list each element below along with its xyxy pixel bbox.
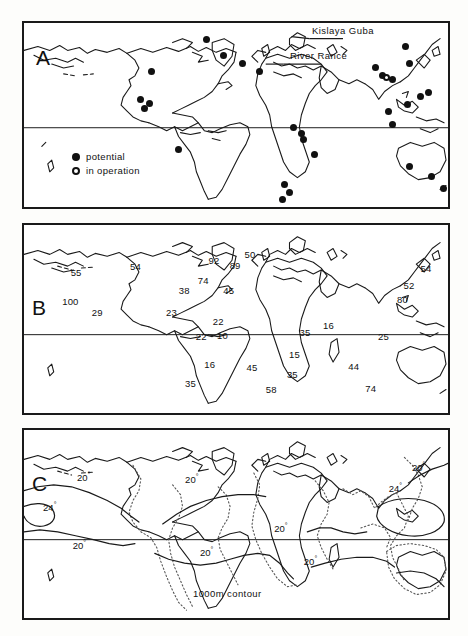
site-marker-potential	[406, 60, 413, 67]
isotherm-label: 24°	[43, 501, 56, 513]
isotherm-label: 20°	[274, 522, 287, 534]
site-marker-potential	[389, 121, 396, 128]
contour-caption-label: 1000m contour	[193, 588, 262, 599]
site-marker-potential	[279, 196, 286, 203]
site-marker-potential	[290, 124, 297, 131]
site-marker-potential	[300, 136, 307, 143]
tidal-range-value: 35	[300, 327, 311, 338]
tidal-range-value: 15	[289, 349, 300, 360]
panel-a: A potential in operation	[22, 21, 450, 209]
tidal-range-value: 22	[213, 316, 224, 327]
panel-b: 5554100299250897438452322102235162554528…	[22, 223, 450, 415]
tidal-range-value: 29	[92, 307, 103, 318]
tidal-range-value: 45	[223, 285, 234, 296]
site-marker-potential	[141, 105, 148, 112]
panel-c-letter: C	[32, 472, 48, 496]
site-marker-potential	[311, 151, 318, 158]
site-marker-potential	[281, 181, 288, 188]
tidal-range-value: 16	[204, 359, 215, 370]
isotherm-label: 24°	[389, 482, 402, 494]
site-marker-potential	[389, 76, 396, 83]
tidal-range-value: 22	[196, 331, 207, 342]
tidal-range-value: 25	[378, 331, 389, 342]
panel-a-markers-layer	[24, 23, 448, 207]
tidal-range-value: 50	[244, 249, 255, 260]
tidal-range-value: 100	[62, 296, 78, 307]
site-marker-potential	[137, 96, 144, 103]
site-marker-potential	[440, 185, 447, 192]
tidal-range-value: 89	[230, 260, 241, 271]
panel-b-letter: B	[32, 296, 47, 320]
tidal-range-value: 92	[208, 255, 219, 266]
site-marker-potential	[372, 64, 379, 71]
isotherm-label: 20°	[73, 539, 86, 551]
tidal-range-value: 54	[130, 261, 141, 272]
site-marker-potential	[286, 189, 293, 196]
site-marker-potential	[256, 68, 263, 75]
site-marker-potential	[220, 52, 227, 59]
figure-container: A potential in operation Kislaya Guba Ri…	[0, 0, 468, 636]
tidal-range-value: 74	[198, 275, 209, 286]
site-marker-potential	[175, 146, 182, 153]
isotherm-label: 20°	[304, 555, 317, 567]
site-marker-potential	[406, 163, 413, 170]
annotation-kislaya-guba: Kislaya Guba	[312, 25, 374, 36]
site-marker-potential	[385, 108, 392, 115]
tidal-range-value: 52	[403, 280, 414, 291]
tidal-range-value: 58	[266, 384, 277, 395]
tidal-range-value: 55	[71, 267, 82, 278]
site-marker-in-operation	[383, 74, 390, 81]
site-marker-potential	[428, 173, 435, 180]
panel-b-values-layer: 5554100299250897438452322102235162554528…	[24, 225, 448, 413]
isotherm-label: 20°	[412, 461, 425, 473]
site-marker-potential	[203, 36, 210, 43]
site-marker-potential	[402, 43, 409, 50]
tidal-range-value: 80	[397, 294, 408, 305]
site-marker-potential	[404, 101, 411, 108]
tidal-range-value: 23	[166, 307, 177, 318]
tidal-range-value: 35	[185, 378, 196, 389]
tidal-range-value: 54	[420, 263, 431, 274]
tidal-range-value: 10	[217, 330, 228, 341]
tidal-range-value: 45	[247, 362, 258, 373]
site-marker-potential	[148, 68, 155, 75]
site-marker-potential	[425, 89, 432, 96]
tidal-range-value: 74	[365, 383, 376, 394]
isotherm-label: 20°	[200, 546, 213, 558]
tidal-range-value: 35	[287, 369, 298, 380]
site-marker-potential	[239, 60, 246, 67]
isotherm-label: 20°	[185, 473, 198, 485]
tidal-range-value: 44	[348, 361, 359, 372]
tidal-range-value: 38	[179, 285, 190, 296]
site-marker-potential	[417, 93, 424, 100]
tidal-range-value: 16	[323, 320, 334, 331]
isotherm-label: 20°	[77, 471, 90, 483]
annotation-river-rance: River Rance	[290, 50, 347, 61]
